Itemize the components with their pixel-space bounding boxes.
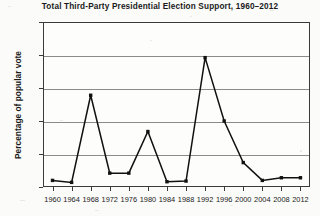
- x-tick-mark: [53, 187, 54, 191]
- x-tick-mark: [148, 187, 149, 191]
- scan-artifact: [270, 10, 274, 11]
- scan-artifact: [150, 40, 152, 41]
- scan-artifact: [95, 210, 99, 211]
- x-tick-mark: [129, 187, 130, 191]
- scan-artifact: [300, 150, 302, 152]
- x-tick-mark: [91, 187, 92, 191]
- chart-figure: Total Third-Party Presidential Election …: [0, 0, 320, 216]
- scan-artifact: [60, 120, 63, 121]
- scan-artifact: [12, 80, 14, 81]
- x-tick-mark: [110, 187, 111, 191]
- scan-artifact: [8, 6, 11, 7]
- gridline: [44, 89, 309, 90]
- plot-area: [43, 22, 310, 187]
- x-tick-mark: [224, 187, 225, 191]
- x-tick-mark: [243, 187, 244, 191]
- x-tick-label: 2012: [283, 195, 317, 204]
- x-tick-mark: [186, 187, 187, 191]
- y-tick-mark: [39, 154, 43, 155]
- y-tick-mark: [39, 121, 43, 122]
- y-tick-mark: [39, 88, 43, 89]
- y-tick-mark: [39, 22, 43, 23]
- y-tick-mark: [39, 187, 43, 188]
- x-tick-mark: [167, 187, 168, 191]
- x-tick-mark: [205, 187, 206, 191]
- y-axis-label: Percentage of popular vote: [13, 25, 23, 185]
- x-tick-mark: [300, 187, 301, 191]
- gridline: [44, 56, 309, 57]
- scan-artifact: [230, 205, 233, 206]
- gridline: [44, 122, 309, 123]
- x-tick-mark: [262, 187, 263, 191]
- scan-artifact: [20, 200, 25, 201]
- y-tick-mark: [39, 55, 43, 56]
- scan-artifact: [190, 16, 192, 17]
- gridline: [44, 155, 309, 156]
- x-tick-mark: [281, 187, 282, 191]
- x-tick-mark: [72, 187, 73, 191]
